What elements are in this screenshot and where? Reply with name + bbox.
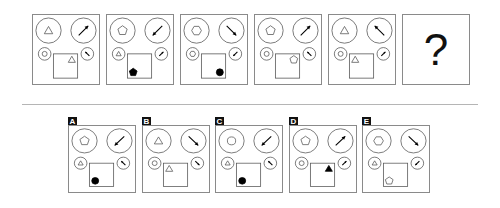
small-circle-left <box>334 48 347 61</box>
small-circle-left <box>260 48 273 61</box>
triangle-icon <box>352 56 359 62</box>
large-circle-left <box>72 129 97 153</box>
sequence-panel-1 <box>32 14 100 85</box>
arrow-sw-icon <box>153 26 163 36</box>
panel-figure <box>290 126 356 192</box>
small-circle-left <box>38 48 51 61</box>
arrow-ne-icon <box>336 136 346 145</box>
sequence-panel-3 <box>180 14 248 85</box>
hexagon-icon <box>192 26 202 34</box>
panel-figure <box>143 126 209 192</box>
circle-icon <box>227 137 235 145</box>
square-frame <box>53 54 77 78</box>
pentagon-icon <box>266 26 275 35</box>
triangle-icon <box>68 56 75 62</box>
hexagon-icon <box>190 51 196 56</box>
large-circle-left <box>366 129 391 153</box>
large-circle-left <box>219 129 244 153</box>
triangle-icon <box>372 161 377 165</box>
large-circle-left <box>146 129 171 153</box>
triangle-icon <box>325 165 332 171</box>
arrow-ne-icon <box>342 161 346 165</box>
triangle-icon <box>225 161 230 165</box>
large-circle-left <box>184 18 209 43</box>
panel-figure <box>69 126 135 192</box>
large-circle-left <box>110 18 135 43</box>
arrow-se-icon <box>227 26 237 36</box>
triangle-icon <box>44 26 52 33</box>
small-circle-left <box>295 157 308 169</box>
arrow-sw-icon <box>415 161 419 165</box>
panel-figure <box>181 15 247 84</box>
question-mark: ? <box>403 15 469 84</box>
arrow-sw-icon <box>233 52 237 56</box>
small-circle-left <box>148 157 161 169</box>
pentagon-icon <box>385 177 393 184</box>
sequence-panel-2 <box>106 14 174 85</box>
sequence-panel-4 <box>254 14 322 85</box>
arrow-nw-icon <box>268 161 272 165</box>
large-circle-left <box>258 18 283 43</box>
arrow-nw-icon <box>85 52 89 56</box>
hexagon-icon <box>374 137 384 145</box>
small-circle-left <box>74 157 87 169</box>
divider <box>22 104 478 105</box>
panel-figure <box>329 15 395 84</box>
square-frame <box>163 163 187 186</box>
panel-figure <box>216 126 282 192</box>
pentagon-icon <box>129 68 137 75</box>
panel-figure <box>33 15 99 84</box>
option-e[interactable] <box>362 125 430 193</box>
circle-icon <box>299 161 304 166</box>
panel-figure <box>255 15 321 84</box>
option-c[interactable] <box>215 125 283 193</box>
missing-panel: ? <box>402 14 470 85</box>
option-a[interactable] <box>68 125 136 193</box>
arrow-ne-icon <box>301 26 311 36</box>
square-frame <box>310 163 334 186</box>
circle-icon <box>338 51 343 56</box>
arrow-se-icon <box>195 161 199 165</box>
circle-icon <box>239 178 246 185</box>
circle-icon <box>92 178 99 185</box>
large-circle-left <box>36 18 61 43</box>
square-frame <box>383 163 407 186</box>
arrow-ne-icon <box>381 52 385 56</box>
circle-icon <box>152 161 157 166</box>
pentagon-icon <box>118 26 127 35</box>
panel-figure <box>107 15 173 84</box>
option-d[interactable] <box>289 125 357 193</box>
arrow-ne-icon <box>79 26 89 36</box>
triangle-icon <box>78 161 83 165</box>
circle-icon <box>264 51 269 56</box>
arrow-nw-icon <box>375 26 385 36</box>
arrow-se-icon <box>409 136 419 145</box>
arrow-nw-icon <box>307 52 311 56</box>
triangle-icon <box>340 26 348 33</box>
large-circle-left <box>332 18 357 43</box>
small-circle-left <box>186 48 199 61</box>
arrow-se-icon <box>189 136 199 145</box>
pentagon-icon <box>290 56 298 63</box>
triangle-icon <box>116 51 121 55</box>
pentagon-icon <box>80 136 89 144</box>
option-b[interactable] <box>142 125 210 193</box>
sequence-panel-5 <box>328 14 396 85</box>
arrow-nw-icon <box>121 161 125 165</box>
arrow-ne-icon <box>159 52 163 56</box>
small-circle-left <box>112 48 125 61</box>
arrow-sw-icon <box>115 136 125 145</box>
large-circle-left <box>293 129 318 153</box>
circle-icon <box>42 51 47 56</box>
triangle-icon <box>154 137 162 144</box>
triangle-icon <box>166 165 173 171</box>
pentagon-icon <box>301 136 310 144</box>
circle-icon <box>216 69 223 76</box>
small-circle-left <box>368 157 381 169</box>
square-frame <box>349 54 373 78</box>
panel-figure <box>363 126 429 192</box>
arrow-sw-icon <box>262 136 272 145</box>
small-circle-left <box>221 157 234 169</box>
